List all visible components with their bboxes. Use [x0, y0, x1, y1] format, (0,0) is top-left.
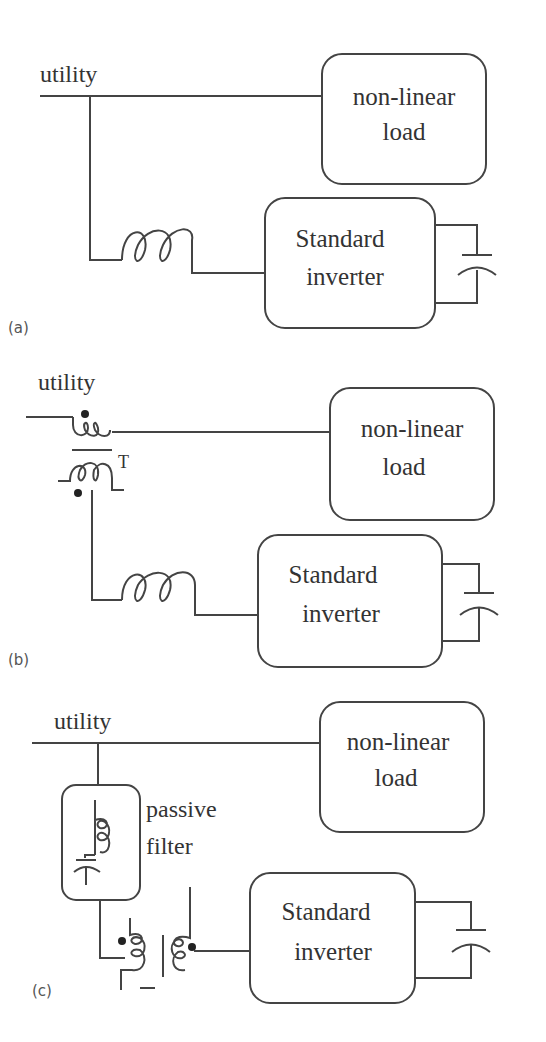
load-label-line2: load — [382, 118, 426, 145]
filter-wire — [85, 855, 95, 858]
diagram-canvas: utility non-linear load Standard inverte… — [0, 0, 546, 1042]
polarity-dot — [81, 410, 89, 418]
caption-a: (a) — [8, 319, 29, 337]
inverter-label-line1: Standard — [282, 898, 371, 925]
inverter-label-line2: inverter — [302, 600, 380, 627]
load-label-line1: non-linear — [353, 83, 456, 110]
caption-c: (c) — [32, 982, 52, 1000]
dc-link-wire — [415, 902, 471, 978]
panel-a: utility non-linear load Standard inverte… — [40, 54, 496, 328]
load-label-line1: non-linear — [347, 728, 450, 755]
polarity-dot — [118, 937, 126, 945]
inverter-label-line1: Standard — [289, 561, 378, 588]
utility-label: utility — [38, 369, 95, 395]
transformer-secondary-icon — [172, 887, 190, 970]
transformer-secondary-icon — [58, 463, 124, 490]
branch-wire — [92, 490, 122, 600]
load-label-line1: non-linear — [361, 415, 464, 442]
caption-b: (b) — [8, 651, 29, 669]
utility-label: utility — [40, 61, 97, 87]
load-label-line2: load — [382, 453, 426, 480]
dc-link-wire — [442, 564, 479, 641]
passive-filter-box — [62, 785, 140, 900]
polarity-dot — [188, 943, 196, 951]
dc-link-wire — [435, 225, 477, 303]
transformer-label: T — [118, 452, 129, 472]
branch-wire — [90, 96, 122, 260]
inverter-label-line2: inverter — [306, 263, 384, 290]
filter-inductor-icon — [95, 800, 109, 855]
utility-label: utility — [54, 708, 111, 734]
transformer-primary-icon — [73, 417, 110, 436]
load-label-line2: load — [374, 764, 418, 791]
inductor-icon — [122, 229, 265, 273]
filter-out-wire — [100, 900, 125, 958]
polarity-dot — [74, 489, 82, 497]
inverter-label-line1: Standard — [296, 225, 385, 252]
panel-c: utility non-linear load passive filter S… — [32, 702, 490, 1003]
filter-label-line2: filter — [146, 833, 193, 859]
inverter-label-line2: inverter — [294, 938, 372, 965]
transformer-primary-icon — [121, 918, 145, 990]
panel-b: utility T non-linear load Standard inver… — [26, 369, 498, 667]
inductor-icon — [122, 572, 258, 615]
filter-label-line1: passive — [146, 796, 217, 822]
